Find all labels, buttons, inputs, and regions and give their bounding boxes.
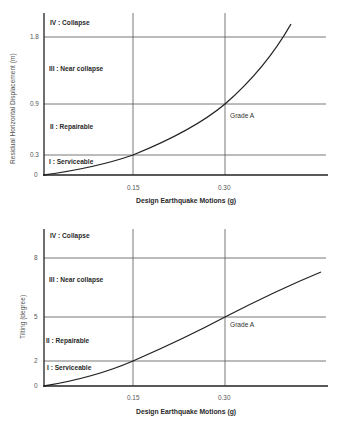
grade-a-label: Grade A [230,322,254,329]
y-tick-5: 5 [34,314,38,320]
y-tick-8: 8 [34,255,38,261]
zone-serviceable: I : Serviceable [47,365,91,372]
x-tick-0.15: 0.15 [127,395,139,401]
tilting-chart: Tilting (degree) 0 2 5 8 0.15 0.30 Desig… [0,0,344,435]
y-tick-0: 0 [34,383,38,389]
zone-repairable: II : Repairable [46,338,89,345]
y-axis-label: Tilting (degree) [20,295,27,339]
y-tick-2: 2 [34,358,38,364]
x-axis-label: Design Earthquake Motions (g) [136,409,236,416]
zone-near-collapse: III : Near collapse [49,277,103,284]
zone-collapse: IV : Collapse [50,233,90,240]
x-tick-0.30: 0.30 [218,395,230,401]
